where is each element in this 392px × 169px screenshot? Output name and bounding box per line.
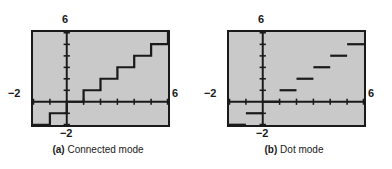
step-curve-dot xyxy=(229,44,364,125)
y-axis-max-label: 6 xyxy=(62,14,68,25)
step-curve-connected xyxy=(33,33,168,125)
plot-dot-mode xyxy=(229,32,364,125)
x-axis-min-label: −2 xyxy=(8,88,20,99)
x-axis-min-label: −2 xyxy=(204,88,216,99)
calculator-screen-b xyxy=(227,30,366,127)
panel-dot-mode: 6 −2 6 −2 (b) Dot mode xyxy=(196,0,392,169)
y-axis-max-label: 6 xyxy=(258,14,264,25)
caption-tag-b: (b) xyxy=(265,144,278,155)
calculator-screen-a xyxy=(31,30,170,127)
step-function-figure: 6 −2 6 −2 (a) Connected mode xyxy=(0,0,392,169)
x-axis-max-label: 6 xyxy=(172,88,178,99)
panel-connected-mode: 6 −2 6 −2 (a) Connected mode xyxy=(0,0,196,169)
x-axis-max-label: 6 xyxy=(368,88,374,99)
caption-panel-a: (a) Connected mode xyxy=(0,145,196,155)
caption-text-b: Dot mode xyxy=(280,144,323,155)
caption-tag-a: (a) xyxy=(52,144,64,155)
caption-panel-b: (b) Dot mode xyxy=(196,145,392,155)
caption-text-a: Connected mode xyxy=(67,144,143,155)
y-axis-min-label: −2 xyxy=(60,128,72,139)
plot-connected-mode xyxy=(33,32,168,125)
y-axis-min-label: −2 xyxy=(256,128,268,139)
